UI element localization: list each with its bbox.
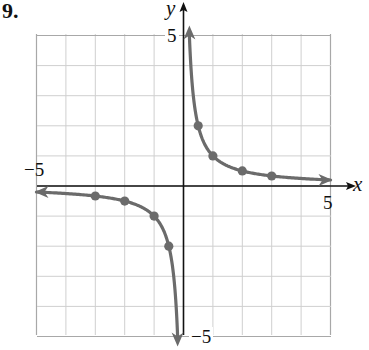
x-axis-label: x [353,174,362,195]
data-point [194,121,203,130]
data-point [208,151,217,160]
y-max-tick-label: 5 [165,26,179,45]
hyperbola-chart [0,0,369,350]
data-point [150,212,159,221]
data-point [91,191,100,200]
axes [37,2,356,335]
x-max-tick-label: 5 [323,193,333,212]
data-point [164,242,173,251]
data-point [267,171,276,180]
problem-label: 9. [2,0,19,22]
data-point [238,166,247,175]
y-min-tick-label: −5 [189,327,213,346]
x-min-tick-label: −5 [24,160,44,179]
data-point [120,196,129,205]
y-axis-label: y [166,0,175,19]
